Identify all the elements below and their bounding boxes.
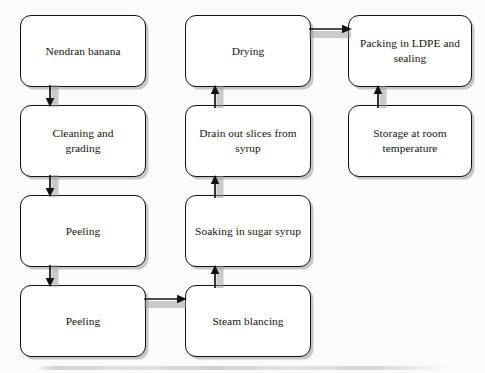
node-drying[interactable]: Drying: [185, 15, 311, 87]
node-peeling-2[interactable]: Peeling: [20, 285, 146, 357]
node-peeling-1[interactable]: Peeling: [20, 195, 146, 267]
caption-remnant: [36, 366, 448, 370]
node-label: Peeling: [66, 224, 101, 239]
node-cleaning-grading[interactable]: Cleaning andgrading: [20, 105, 146, 177]
node-label: Storage at roomtemperature: [373, 126, 447, 155]
node-steam-blancing[interactable]: Steam blancing: [185, 285, 311, 357]
node-soaking-sugar-syrup[interactable]: Soaking in sugar syrup: [185, 195, 311, 267]
node-label: Steam blancing: [212, 314, 283, 329]
node-label: Peeling: [66, 314, 101, 329]
edge-peeling2-to-steam: [144, 292, 189, 314]
node-label: Drain out slices fromsyrup: [199, 126, 297, 155]
flowchart-canvas: Nendran banana Cleaning andgrading Peeli…: [0, 0, 485, 373]
node-drain-out-slices[interactable]: Drain out slices fromsyrup: [185, 105, 311, 177]
node-label: Soaking in sugar syrup: [195, 224, 301, 239]
node-label: Packing in LDPE andsealing: [360, 36, 460, 65]
node-label: Cleaning andgrading: [52, 126, 113, 155]
node-storage-room-temp[interactable]: Storage at roomtemperature: [348, 105, 472, 177]
node-label: Nendran banana: [45, 44, 120, 59]
node-nendran-banana[interactable]: Nendran banana: [20, 15, 146, 87]
node-packing-ldpe[interactable]: Packing in LDPE andsealing: [348, 15, 472, 87]
node-label: Drying: [232, 44, 265, 59]
